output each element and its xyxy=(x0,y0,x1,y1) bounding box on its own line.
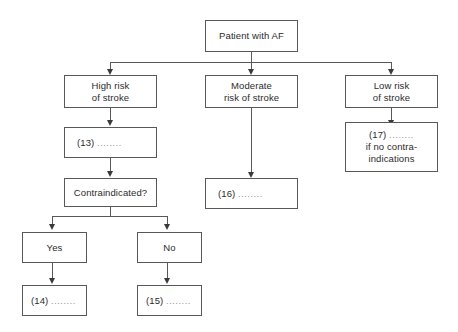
node-no: No xyxy=(137,232,202,263)
edge-yes-no-bus xyxy=(52,216,168,217)
node-blank-14-text: (14) ........ xyxy=(31,295,76,307)
node-high-risk-line2: of stroke xyxy=(92,92,129,104)
node-patient-with-af-label: Patient with AF xyxy=(219,30,284,42)
node-blank-15: (15) ........ xyxy=(137,285,202,316)
node-blank-17-line1: (17) ........ xyxy=(369,129,414,141)
node-blank-17: (17) ........ if no contra- indications xyxy=(345,122,438,172)
node-blank-16: (16) ........ xyxy=(205,178,298,209)
node-contraindicated-label: Contraindicated? xyxy=(74,187,147,199)
node-blank-14: (14) ........ xyxy=(22,285,87,316)
flowchart-canvas: Patient with AF High risk of stroke Mode… xyxy=(0,0,458,332)
node-moderate-risk-of-stroke: Moderate risk of stroke xyxy=(205,75,298,108)
node-moderate-risk-line1: Moderate xyxy=(231,80,272,92)
arrowhead-to-blank-15 xyxy=(164,278,170,284)
node-moderate-risk-line2: risk of stroke xyxy=(224,92,279,104)
edge-no-to-15 xyxy=(167,263,168,279)
node-high-risk-of-stroke: High risk of stroke xyxy=(64,75,157,108)
node-blank-17-line2: if no contra- xyxy=(366,141,417,153)
node-high-risk-line1: High risk xyxy=(92,80,130,92)
arrowhead-to-blank-14 xyxy=(49,278,55,284)
edge-13-to-contraindicated xyxy=(110,158,111,171)
node-blank-13: (13) ........ xyxy=(64,127,157,158)
arrowhead-to-yes xyxy=(49,224,55,230)
arrowhead-to-blank-13 xyxy=(107,120,113,126)
node-blank-17-line3: indications xyxy=(369,153,415,165)
node-low-risk-of-stroke: Low risk of stroke xyxy=(345,75,438,108)
arrowhead-to-contraindicated xyxy=(107,171,113,177)
node-no-label: No xyxy=(163,242,175,254)
edge-yes-to-14 xyxy=(52,263,53,279)
node-patient-with-af: Patient with AF xyxy=(205,20,298,52)
node-blank-13-text: (13) ........ xyxy=(77,137,122,149)
node-low-risk-line1: Low risk xyxy=(374,80,410,92)
node-yes-label: Yes xyxy=(47,242,63,254)
node-yes: Yes xyxy=(22,232,87,263)
node-blank-15-text: (15) ........ xyxy=(146,295,191,307)
node-contraindicated: Contraindicated? xyxy=(64,178,157,207)
node-blank-16-text: (16) ........ xyxy=(218,188,263,200)
node-low-risk-line2: of stroke xyxy=(373,92,410,104)
edge-moderate-risk-to-16 xyxy=(251,108,252,173)
arrowhead-to-no xyxy=(164,224,170,230)
